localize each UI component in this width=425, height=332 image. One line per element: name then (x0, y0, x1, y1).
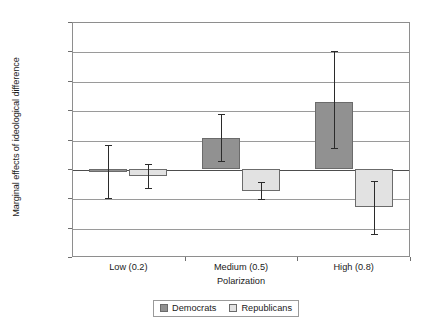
y-axis-tick-mark (68, 198, 72, 199)
error-bar-cap-upper (258, 182, 265, 183)
x-axis-tick-label: Low (0.2) (68, 262, 188, 272)
x-axis-tick-mark (410, 257, 411, 261)
chart-figure: Marginal effects of ideological differen… (0, 0, 425, 332)
legend-item-label: Republicans (241, 303, 292, 313)
gridline (73, 82, 409, 83)
error-bar-cap-upper (145, 164, 152, 165)
y-axis-tick-mark (68, 228, 72, 229)
gridline (73, 52, 409, 53)
chart-legend: DemocratsRepublicans (153, 300, 299, 317)
error-bar-line (374, 181, 375, 234)
y-axis-tick-mark (68, 51, 72, 52)
error-bar-cap-upper (218, 114, 225, 115)
error-bar-line (261, 182, 262, 200)
error-bar-line (221, 114, 222, 161)
legend-item-label: Democrats (172, 303, 216, 313)
error-bar-cap-lower (371, 234, 378, 235)
x-axis-tick-label: Medium (0.5) (181, 262, 301, 272)
error-bar-cap-upper (105, 145, 112, 146)
gridline (73, 111, 409, 112)
plot-area (72, 22, 410, 257)
gridline (73, 141, 409, 142)
y-axis-tick-mark (68, 81, 72, 82)
x-axis-tick-mark (297, 257, 298, 261)
error-bar-cap-lower (218, 161, 225, 162)
gridline (73, 229, 409, 230)
error-bar-cap-lower (105, 198, 112, 199)
error-bar-line (148, 164, 149, 188)
error-bar-cap-upper (331, 51, 338, 52)
legend-item-democrats: Democrats (160, 303, 216, 313)
y-axis-title: Marginal effects of ideological differen… (11, 17, 21, 257)
error-bar-cap-lower (331, 148, 338, 149)
x-axis-title: Polarization (72, 276, 410, 286)
x-axis-tick-mark (185, 257, 186, 261)
legend-swatch-icon (160, 304, 168, 312)
y-axis-tick-mark (68, 140, 72, 141)
y-axis-tick-mark (68, 257, 72, 258)
error-bar-line (334, 51, 335, 148)
legend-item-republicans: Republicans (229, 303, 292, 313)
error-bar-line (108, 145, 109, 198)
y-axis-tick-mark (68, 169, 72, 170)
error-bar-cap-upper (371, 181, 378, 182)
x-axis-tick-label: High (0.8) (294, 262, 414, 272)
y-axis-tick-mark (68, 110, 72, 111)
y-axis-tick-mark (68, 22, 72, 23)
error-bar-cap-lower (258, 199, 265, 200)
error-bar-cap-lower (145, 188, 152, 189)
legend-swatch-icon (229, 304, 237, 312)
